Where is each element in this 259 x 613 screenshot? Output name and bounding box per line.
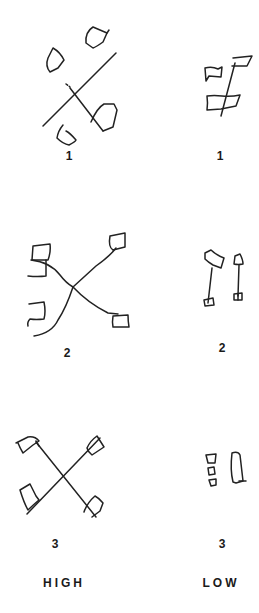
column-heading-high: HIGH <box>43 577 85 589</box>
row-3-low-label: 3 <box>219 538 226 550</box>
low-3-drawing <box>206 452 246 486</box>
row-1-high-label: 1 <box>66 150 73 162</box>
row-1-low-label: 1 <box>217 150 224 162</box>
row-3-high-label: 3 <box>52 538 59 550</box>
column-heading-low: LOW <box>203 577 240 589</box>
high-1-drawing <box>43 27 117 145</box>
row-2-high-label: 2 <box>64 347 71 359</box>
high-3-drawing <box>16 436 104 517</box>
row-2-low-label: 2 <box>219 342 226 354</box>
low-1-drawing <box>205 56 252 116</box>
low-2-drawing <box>204 250 243 306</box>
high-2-drawing <box>28 233 129 336</box>
sketch-canvas <box>0 0 259 613</box>
